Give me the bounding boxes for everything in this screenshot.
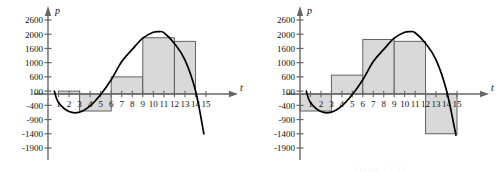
bar-left-3 bbox=[143, 38, 175, 94]
x-tick-label-left-2: 3 bbox=[77, 99, 82, 109]
x-tick-label-right-1: 2 bbox=[319, 99, 324, 109]
y-tick-label-left-5: 100 bbox=[30, 87, 44, 97]
y-tick-label-right-5: 100 bbox=[282, 87, 296, 97]
y-axis-arrow-icon-left bbox=[45, 6, 51, 16]
y-tick-label-right-9: -1900 bbox=[274, 143, 295, 153]
bar-right-3 bbox=[394, 41, 425, 94]
y-tick-label-right-8: -1400 bbox=[274, 129, 295, 139]
y-tick-label-left-1: 2000 bbox=[25, 30, 44, 40]
x-tick-label-right-5: 6 bbox=[361, 99, 366, 109]
x-tick-label-right-11: 12 bbox=[421, 99, 430, 109]
x-axis-arrow-icon-right bbox=[480, 91, 489, 97]
x-tick-label-left-6: 7 bbox=[119, 99, 124, 109]
bar-left-2 bbox=[111, 77, 143, 94]
plot-area-right: 2600200016001000600100-400-900-1400-1900… bbox=[252, 0, 503, 172]
y-tick-label-left-3: 1000 bbox=[25, 58, 44, 68]
y-tick-label-left-8: -1400 bbox=[22, 129, 43, 139]
figure-container: 2600200016001000600100-400-900-1400-1900… bbox=[0, 0, 503, 172]
caption-right: Figure 13.25 bbox=[300, 165, 460, 172]
x-tick-label-right-7: 8 bbox=[381, 99, 386, 109]
x-tick-label-left-9: 10 bbox=[149, 99, 159, 109]
y-tick-label-left-7: -900 bbox=[27, 115, 44, 125]
x-tick-label-right-6: 7 bbox=[371, 99, 376, 109]
x-tick-label-right-9: 10 bbox=[400, 99, 410, 109]
y-tick-label-left-4: 600 bbox=[30, 72, 44, 82]
y-tick-label-left-9: -1900 bbox=[22, 143, 43, 153]
x-tick-label-left-10: 11 bbox=[160, 99, 169, 109]
y-tick-label-right-0: 2600 bbox=[277, 15, 296, 25]
y-axis-label-left: p bbox=[54, 5, 60, 16]
x-axis-arrow-icon-left bbox=[229, 91, 238, 97]
caption-left bbox=[60, 165, 200, 172]
y-tick-label-left-0: 2600 bbox=[25, 15, 44, 25]
x-tick-label-left-5: 6 bbox=[109, 99, 114, 109]
x-axis-label-left: t bbox=[240, 82, 243, 93]
x-axis-label-right: t bbox=[491, 82, 494, 93]
x-tick-label-right-2: 3 bbox=[329, 99, 334, 109]
bar-left-4 bbox=[174, 41, 195, 94]
y-tick-label-right-7: -900 bbox=[279, 115, 296, 125]
chart-right: 2600200016001000600100-400-900-1400-1900… bbox=[252, 0, 503, 172]
x-tick-label-left-12: 13 bbox=[180, 99, 190, 109]
y-tick-label-right-1: 2000 bbox=[277, 30, 296, 40]
x-tick-label-left-14: 15 bbox=[202, 99, 212, 109]
y-tick-label-right-2: 1600 bbox=[277, 44, 296, 54]
y-tick-label-right-3: 1000 bbox=[277, 58, 296, 68]
y-tick-label-left-2: 1600 bbox=[25, 44, 44, 54]
x-tick-label-right-4: 5 bbox=[350, 99, 355, 109]
x-tick-label-left-4: 5 bbox=[98, 99, 103, 109]
bar-left-1 bbox=[80, 94, 112, 111]
y-tick-label-left-6: -400 bbox=[27, 101, 44, 111]
x-tick-label-right-14: 15 bbox=[453, 99, 463, 109]
x-tick-label-left-11: 12 bbox=[170, 99, 179, 109]
x-tick-label-right-10: 11 bbox=[411, 99, 420, 109]
plot-area-left: 2600200016001000600100-400-900-1400-1900… bbox=[0, 0, 252, 172]
y-axis-arrow-icon-right bbox=[297, 6, 303, 16]
x-tick-label-left-8: 9 bbox=[141, 99, 146, 109]
chart-left: 2600200016001000600100-400-900-1400-1900… bbox=[0, 0, 252, 172]
y-tick-label-right-6: -400 bbox=[279, 101, 296, 111]
x-tick-label-right-12: 13 bbox=[432, 99, 442, 109]
bar-right-1 bbox=[331, 75, 362, 94]
y-axis-label-right: p bbox=[306, 5, 312, 16]
y-tick-label-right-4: 600 bbox=[282, 72, 296, 82]
bar-right-2 bbox=[363, 40, 394, 94]
x-tick-label-left-7: 8 bbox=[130, 99, 135, 109]
x-tick-label-right-8: 9 bbox=[392, 99, 397, 109]
x-tick-label-left-1: 2 bbox=[67, 99, 72, 109]
